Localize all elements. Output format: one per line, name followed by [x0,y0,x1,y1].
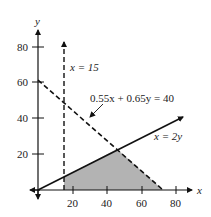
y-tick-label-40: 40 [17,113,28,124]
label-budget-constraint: 0.55x + 0.65y = 40 [90,93,174,104]
y-tick-label-60: 60 [17,77,28,88]
y-tick-label-80: 80 [17,42,28,53]
y-tick-label-20: 20 [17,149,28,160]
annotation-pointer [90,104,103,117]
graph-canvas [0,0,211,217]
label-x-equals-2y: x = 2y [154,131,182,142]
x-tick-label-20: 20 [67,198,78,209]
x-tick-label-40: 40 [101,198,112,209]
x-tick-label-80: 80 [170,198,181,209]
x-tick-label-60: 60 [136,198,147,209]
x-axis-label: x [197,185,202,196]
y-axis-label: y [35,16,40,27]
label-x-equals-15: x = 15 [70,62,99,73]
